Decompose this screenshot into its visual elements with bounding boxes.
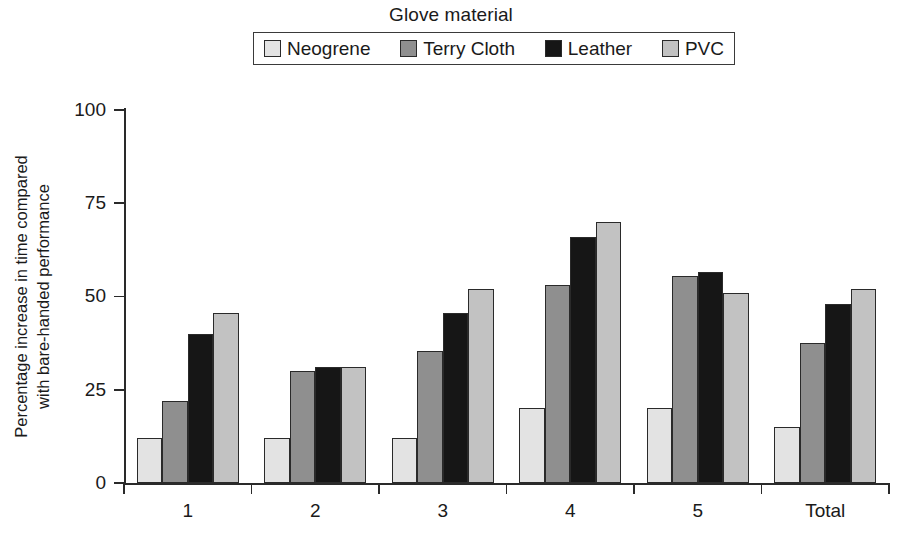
bar-neogrene-4[interactable] [519,408,545,483]
y-axis-title-text: Percentage increase in time compared wit… [10,155,55,437]
bar-terry-cloth-2[interactable] [290,371,316,483]
bar-pvc-4[interactable] [596,222,622,483]
x-axis-tick [888,483,890,494]
bar-leather-5[interactable] [698,272,724,483]
legend-swatch-icon [662,40,679,57]
bar-leather-2[interactable] [315,367,341,483]
x-axis-tick [378,483,380,494]
legend-item-pvc[interactable]: PVC [662,39,724,58]
y-axis-tick: 75 [114,202,124,204]
bar-pvc-3[interactable] [468,289,494,483]
x-axis-label: 1 [182,500,193,522]
x-axis-tick [633,483,635,494]
bar-terry-cloth-4[interactable] [545,285,571,483]
bar-leather-3[interactable] [443,313,469,483]
bar-neogrene-2[interactable] [264,438,290,483]
y-axis-tick: 25 [114,389,124,391]
x-axis-label: Total [805,500,845,522]
bar-terry-cloth-5[interactable] [672,276,698,483]
bar-pvc-2[interactable] [341,367,367,483]
bar-neogrene-5[interactable] [647,408,673,483]
plot-area: 0255075100 [124,110,889,483]
y-axis-tick: 100 [114,109,124,111]
x-axis-tick [123,483,125,494]
x-axis-tick [506,483,508,494]
y-axis-tick: 50 [114,296,124,298]
x-axis-label: 2 [310,500,321,522]
bar-pvc-total[interactable] [851,289,877,483]
bar-terry-cloth-1[interactable] [162,401,188,483]
bar-chart: Glove material NeogreneTerry ClothLeathe… [0,0,902,542]
bar-leather-1[interactable] [188,334,214,483]
y-axis-tick-label: 0 [95,472,106,494]
bar-terry-cloth-total[interactable] [800,343,826,483]
bar-neogrene-3[interactable] [392,438,418,483]
x-axis-tick [761,483,763,494]
legend-item-label: Terry Cloth [423,39,515,58]
bar-neogrene-1[interactable] [137,438,163,483]
bar-pvc-1[interactable] [213,313,239,483]
bar-pvc-5[interactable] [723,293,749,483]
legend-item-terry-cloth[interactable]: Terry Cloth [400,39,515,58]
y-axis-title: Percentage increase in time compared wit… [0,110,64,483]
x-axis-label: 3 [437,500,448,522]
legend-item-neogrene[interactable]: Neogrene [264,39,370,58]
y-axis-tick-label: 25 [85,379,106,401]
bar-leather-total[interactable] [825,304,851,483]
legend-title: Glove material [0,4,902,26]
x-axis-tick [251,483,253,494]
legend-item-label: Leather [568,39,632,58]
x-axis-label: 4 [565,500,576,522]
y-axis-tick-label: 100 [74,99,106,121]
x-axis-label: 5 [692,500,703,522]
bar-neogrene-total[interactable] [774,427,800,483]
y-axis-tick-label: 75 [85,192,106,214]
bar-terry-cloth-3[interactable] [417,351,443,483]
legend-item-leather[interactable]: Leather [545,39,632,58]
legend-swatch-icon [400,40,417,57]
chart-legend: NeogreneTerry ClothLeatherPVC [253,32,735,65]
legend-swatch-icon [264,40,281,57]
legend-item-label: Neogrene [287,39,370,58]
y-axis-tick-label: 50 [85,285,106,307]
legend-item-label: PVC [685,39,724,58]
bar-leather-4[interactable] [570,237,596,483]
legend-swatch-icon [545,40,562,57]
